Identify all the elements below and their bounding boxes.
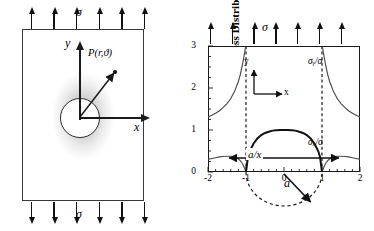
left-sigma-bottom-label: σ [76, 207, 82, 222]
arrow-shaft [144, 12, 145, 29]
stress-arrow [119, 202, 126, 224]
stress-arrow [273, 22, 280, 44]
arrow-shaft [121, 202, 122, 219]
figure-root: σ y x P(r,ϑ) σ Normalized Stress Distrib… [0, 0, 374, 231]
arrow-shaft [31, 12, 32, 29]
arrow-shaft [144, 202, 145, 219]
stress-arrow [74, 7, 81, 29]
x-tick-label: -1 [239, 173, 253, 183]
right-sigma-top-label: σ [262, 20, 268, 35]
arrow-shaft [275, 27, 276, 44]
arrow-shaft [253, 27, 254, 44]
y-tick-label: 3 [184, 40, 196, 50]
x-tick-label: -2 [201, 173, 215, 183]
stress-arrow [142, 202, 149, 224]
arrow-shaft [99, 12, 100, 29]
hole-width-annotation-arrows [226, 150, 342, 166]
stress-arrow [142, 7, 149, 29]
arrow-shaft [31, 202, 32, 219]
stress-arrow [97, 7, 104, 29]
stress-arrow [29, 202, 36, 224]
x-tick-label: 1 [315, 173, 329, 183]
point-p-label: P(r,ϑ) [88, 47, 112, 58]
stress-arrow [208, 22, 215, 44]
radius-annotation-label: a [284, 176, 290, 191]
radial-position-vector [22, 29, 144, 201]
stress-arrow [252, 22, 259, 44]
stress-arrow [339, 22, 346, 44]
mini-axes-x-label: x [284, 87, 289, 97]
arrow-shaft [121, 12, 122, 29]
stress-arrow [52, 7, 59, 29]
arrow-shaft [76, 12, 77, 29]
x-tick-label: 2 [353, 173, 367, 183]
y-tick-label: 0 [184, 166, 196, 176]
arrow-shaft [210, 27, 211, 44]
stress-arrow [29, 7, 36, 29]
arrow-shaft [297, 27, 298, 44]
stress-arrow [230, 22, 237, 44]
arrow-shaft [319, 27, 320, 44]
mini-axes-y-label: y [244, 56, 249, 66]
sigma-x-curve-label: σₓ/σ [308, 137, 323, 147]
y-tick-label: 1 [184, 124, 196, 134]
stress-arrow [295, 22, 302, 44]
stress-distribution-panel: Normalized Stress Distribution σ 0123 -2… [186, 0, 374, 231]
arrow-shaft [99, 202, 100, 219]
y-tick-label: 2 [184, 82, 196, 92]
sigma-y-curve-left [208, 47, 246, 117]
arrow-shaft [232, 27, 233, 44]
mini-axes-indicator [248, 60, 296, 104]
arrow-shaft [53, 202, 54, 219]
stress-arrow [97, 202, 104, 224]
arrow-shaft [53, 12, 54, 29]
hole-width-annotation-label: a/x [246, 148, 263, 160]
sigma-y-curve-label: σᵧ/σ [308, 56, 322, 66]
stress-arrow [52, 202, 59, 224]
arrow-shaft [341, 27, 342, 44]
plate-schematic-panel: σ y x P(r,ϑ) σ [0, 0, 186, 231]
stress-arrow [119, 7, 126, 29]
stress-arrow [317, 22, 324, 44]
sigma-y-curve-right [322, 47, 360, 117]
